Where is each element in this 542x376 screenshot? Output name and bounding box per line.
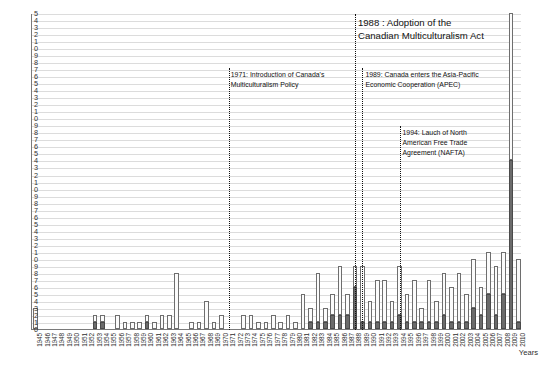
bar-chart: 5432109876543210987654321098765432109876…	[0, 0, 542, 376]
bar	[167, 315, 172, 329]
x-axis-labels: 1945194619471948194919501951195219531954…	[31, 333, 521, 373]
plot-area	[31, 14, 521, 330]
bar-segment-lower	[457, 322, 462, 329]
bar	[457, 273, 462, 329]
bar	[509, 13, 514, 329]
bar	[486, 252, 491, 329]
bar	[382, 280, 387, 329]
bar-segment-upper	[301, 294, 306, 329]
bar-segment-lower	[434, 322, 439, 329]
x-axis-tick-label: 1981	[304, 333, 310, 347]
bar	[330, 294, 335, 329]
bar-segment-lower	[405, 322, 410, 329]
bar-segment-lower	[338, 315, 343, 329]
bar	[338, 266, 343, 329]
bar	[197, 322, 202, 329]
bar-segment-upper	[316, 273, 321, 322]
x-axis-tick-label: 2000	[445, 333, 451, 347]
bar-segment-upper	[323, 308, 328, 322]
bar	[419, 308, 424, 329]
bar-segment-upper	[286, 315, 291, 329]
x-axis-tick-label: 2004	[475, 333, 481, 347]
bar-segment-upper	[145, 315, 150, 322]
x-axis-tick-label: 2007	[497, 333, 503, 347]
bar-segment-lower	[501, 294, 506, 329]
bar	[293, 322, 298, 329]
bar-segment-lower	[308, 322, 313, 329]
bar	[189, 322, 194, 329]
annotation-line-1989	[362, 68, 363, 330]
bar-segment-upper	[479, 287, 484, 315]
x-axis-tick-label: 1988	[356, 333, 362, 347]
bar-segment-upper	[241, 315, 246, 329]
bar-segment-upper	[434, 301, 439, 322]
bar-segment-lower	[419, 322, 424, 329]
x-axis-tick-label: 1952	[89, 333, 95, 347]
x-axis-tick-label: 1990	[371, 333, 377, 347]
bar	[33, 308, 38, 329]
x-axis-tick-label: 2010	[520, 333, 526, 347]
bar	[412, 280, 417, 329]
bar-segment-upper	[308, 308, 313, 322]
x-axis-tick-label: 1967	[200, 333, 206, 347]
bar-segment-upper	[212, 322, 217, 329]
bar-segment-upper	[390, 301, 395, 322]
bar-segment-upper	[100, 315, 105, 322]
bar	[241, 315, 246, 329]
x-axis-tick-label: 1974	[252, 333, 258, 347]
x-axis-tick-label: 1995	[408, 333, 414, 347]
bar-segment-upper	[486, 252, 491, 294]
bar	[345, 294, 350, 329]
bar	[160, 315, 165, 329]
bar-segment-upper	[471, 259, 476, 308]
bar-segment-lower	[375, 322, 380, 329]
bar-segment-lower	[464, 322, 469, 329]
bar-segment-lower	[427, 322, 432, 329]
x-axis-tick-label: 1957	[126, 333, 132, 347]
bar-segment-lower	[442, 315, 447, 329]
bar	[123, 322, 128, 329]
bar-segment-upper	[93, 315, 98, 322]
bar-segment-lower	[509, 160, 514, 329]
bar-segment-upper	[293, 322, 298, 329]
bar-segment-lower	[382, 322, 387, 329]
bar-segment-upper	[449, 287, 454, 322]
bar	[100, 315, 105, 329]
annotation-text-1988: 1988 : Adoption of the Canadian Multicul…	[358, 16, 533, 43]
bar	[174, 273, 179, 329]
bar-segment-upper	[405, 294, 410, 322]
bar	[501, 252, 506, 329]
x-axis-tick-label: 1979	[290, 333, 296, 347]
bar-segment-lower	[316, 322, 321, 329]
bar-segment-lower	[516, 322, 521, 329]
bar-segment-upper	[189, 322, 194, 329]
bar-segment-lower	[390, 322, 395, 329]
bar-segment-lower	[330, 315, 335, 329]
bar-segment-upper	[264, 322, 269, 329]
x-axis-tick-label: 2005	[483, 333, 489, 347]
bar-segment-lower	[449, 322, 454, 329]
bar	[278, 322, 283, 329]
bar-segment-upper	[271, 315, 276, 329]
x-axis-tick-label: 1964	[178, 333, 184, 347]
annotation-text-1994: 1994: Lauch of North American Free Trade…	[403, 128, 498, 158]
x-axis-tick-label: 1978	[282, 333, 288, 347]
x-axis-tick-label: 1953	[97, 333, 103, 347]
annotation-line-1971	[229, 68, 230, 330]
bar-segment-lower	[145, 322, 150, 329]
x-axis-tick-label: 1993	[393, 333, 399, 347]
bar	[115, 315, 120, 329]
bar	[464, 294, 469, 329]
x-axis-tick-label: 1948	[59, 333, 65, 347]
bar	[316, 273, 321, 329]
bar	[516, 259, 521, 329]
annotation-line-1994	[400, 126, 401, 330]
bar	[219, 315, 224, 329]
bar	[434, 301, 439, 329]
x-axis-tick-label: 1971	[230, 333, 236, 347]
bar	[145, 315, 150, 329]
bar	[271, 315, 276, 329]
bar-segment-upper	[338, 266, 343, 315]
bar-segment-upper	[345, 294, 350, 315]
bar	[212, 322, 217, 329]
